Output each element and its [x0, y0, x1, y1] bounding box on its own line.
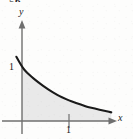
graph-canvas — [0, 0, 133, 139]
y-axis-label: y — [19, 7, 23, 17]
x-axis-tick-label-1: 1 — [66, 125, 71, 135]
shaded-area-under-curve — [22, 67, 111, 121]
y-axis-tick-label-1: 1 — [9, 62, 14, 72]
y-axis-arrow-icon — [19, 20, 26, 29]
x-axis-arrow-icon — [109, 118, 118, 125]
x-axis-label: x — [118, 113, 122, 123]
figure-panel: 56 y x 1 1 — [0, 0, 133, 139]
